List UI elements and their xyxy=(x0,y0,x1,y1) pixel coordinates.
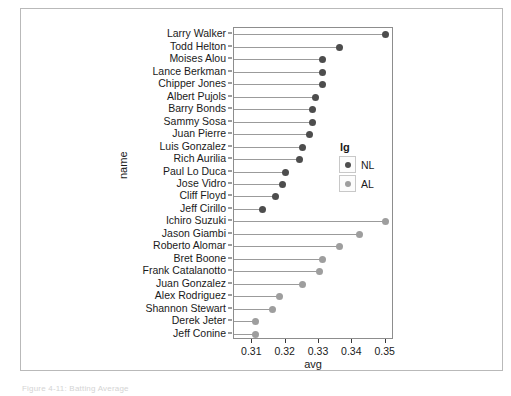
y-axis-tick-label: Chipper Jones xyxy=(158,77,226,89)
lollipop-stem xyxy=(234,259,322,260)
y-axis-tick-label: Jose Vidro xyxy=(177,177,226,189)
legend-title: lg xyxy=(340,141,399,153)
y-axis-tick-mark xyxy=(228,195,232,196)
lollipop-stem xyxy=(234,97,316,98)
x-axis-tick-label: 0.34 xyxy=(341,345,361,357)
y-axis-tick-label: Moises Alou xyxy=(169,52,226,64)
lollipop-dot[interactable] xyxy=(382,31,389,38)
x-axis-tick-label: 0.31 xyxy=(241,345,261,357)
legend-label: AL xyxy=(361,178,374,190)
lollipop-dot[interactable] xyxy=(309,119,316,126)
y-axis-tick-mark xyxy=(228,232,232,233)
y-axis-title: name xyxy=(117,151,129,179)
lollipop-stem xyxy=(234,221,386,222)
y-axis-tick-mark xyxy=(228,58,232,59)
x-axis-tick-label: 0.35 xyxy=(374,345,394,357)
legend-key xyxy=(339,175,356,192)
lollipop-dot[interactable] xyxy=(306,131,313,138)
y-axis-tick-mark xyxy=(228,108,232,109)
lollipop-dot[interactable] xyxy=(269,306,276,313)
y-axis-tick-mark xyxy=(228,282,232,283)
y-axis-tick-label: Juan Pierre xyxy=(172,127,226,139)
lollipop-dot[interactable] xyxy=(382,218,389,225)
lollipop-stem xyxy=(234,284,302,285)
legend: lg NLAL xyxy=(339,141,399,194)
lollipop-dot[interactable] xyxy=(309,106,316,113)
y-axis-tick-mark xyxy=(228,33,232,34)
lollipop-stem xyxy=(234,47,339,48)
lollipop-stem xyxy=(234,196,276,197)
lollipop-dot[interactable] xyxy=(336,243,343,250)
lollipop-dot[interactable] xyxy=(252,318,259,325)
lollipop-dot[interactable] xyxy=(259,206,266,213)
y-axis-tick-label: Paul Lo Duca xyxy=(163,165,226,177)
lollipop-stem xyxy=(234,184,282,185)
y-axis-tick-label: Larry Walker xyxy=(167,27,226,39)
x-axis-tick-label: 0.33 xyxy=(308,345,328,357)
legend-label: NL xyxy=(361,159,374,171)
y-axis-tick-label: Shannon Stewart xyxy=(145,302,226,314)
y-axis-tick-label: Sammy Sosa xyxy=(164,115,226,127)
y-axis-tick-mark xyxy=(228,257,232,258)
y-axis-tick-mark xyxy=(228,320,232,321)
y-axis-tick-label: Rich Aurilia xyxy=(173,152,226,164)
x-axis-tick-mark xyxy=(251,339,252,343)
lollipop-dot[interactable] xyxy=(319,256,326,263)
x-axis-title: avg xyxy=(233,358,393,370)
legend-entries: NLAL xyxy=(339,156,399,192)
lollipop-stem xyxy=(234,309,272,310)
y-axis-tick-mark xyxy=(228,220,232,221)
x-axis-tick-mark xyxy=(318,339,319,343)
y-axis-tick-mark xyxy=(228,120,232,121)
lollipop-stem xyxy=(234,72,322,73)
lollipop-dot[interactable] xyxy=(356,231,363,238)
lollipop-dot[interactable] xyxy=(319,81,326,88)
lollipop-dot[interactable] xyxy=(319,56,326,63)
lollipop-stem xyxy=(234,172,286,173)
x-axis-tick-mark xyxy=(351,339,352,343)
lollipop-dot[interactable] xyxy=(276,293,283,300)
x-axis-tick-mark xyxy=(285,339,286,343)
lollipop-stem xyxy=(234,122,312,123)
lollipop-dot[interactable] xyxy=(252,331,259,338)
legend-item-nl[interactable]: NL xyxy=(339,156,399,173)
y-axis-tick-mark xyxy=(228,270,232,271)
lollipop-dot[interactable] xyxy=(319,69,326,76)
lollipop-dot[interactable] xyxy=(299,144,306,151)
y-axis-tick-label: Todd Helton xyxy=(170,40,226,52)
legend-dot-icon xyxy=(345,181,351,187)
y-axis-tick-label: Bret Boone xyxy=(173,252,226,264)
lollipop-dot[interactable] xyxy=(282,169,289,176)
lollipop-dot[interactable] xyxy=(312,94,319,101)
y-axis-tick-mark xyxy=(228,183,232,184)
lollipop-chart: name Larry WalkerTodd HeltonMoises AlouL… xyxy=(21,9,504,372)
y-axis-tick-mark xyxy=(228,83,232,84)
lollipop-dot[interactable] xyxy=(279,181,286,188)
figure-frame: name Larry WalkerTodd HeltonMoises AlouL… xyxy=(20,8,503,371)
lollipop-stem xyxy=(234,159,299,160)
lollipop-stem xyxy=(234,109,312,110)
lollipop-dot[interactable] xyxy=(272,193,279,200)
y-axis-tick-label: Frank Catalanotto xyxy=(143,264,226,276)
x-axis-tick-mark xyxy=(385,339,386,343)
y-axis-tick-mark xyxy=(228,332,232,333)
y-axis-tick-mark xyxy=(228,45,232,46)
lollipop-dot[interactable] xyxy=(336,44,343,51)
y-axis-tick-label: Barry Bonds xyxy=(168,102,226,114)
lollipop-dot[interactable] xyxy=(296,156,303,163)
y-axis-tick-label: Cliff Floyd xyxy=(180,189,227,201)
lollipop-stem xyxy=(234,147,302,148)
lollipop-stem xyxy=(234,271,319,272)
figure-caption: Figure 4-11: Batting Average xyxy=(22,384,129,393)
legend-item-al[interactable]: AL xyxy=(339,175,399,192)
lollipop-stem xyxy=(234,246,339,247)
lollipop-stem xyxy=(234,296,279,297)
y-axis-tick-mark xyxy=(228,307,232,308)
x-axis-tick-label: 0.32 xyxy=(274,345,294,357)
lollipop-dot[interactable] xyxy=(316,268,323,275)
lollipop-stem xyxy=(234,34,386,35)
y-axis-tick-label: Jeff Cirillo xyxy=(180,202,226,214)
lollipop-stem xyxy=(234,234,359,235)
lollipop-dot[interactable] xyxy=(299,281,306,288)
y-axis-tick-label: Albert Pujols xyxy=(167,90,226,102)
